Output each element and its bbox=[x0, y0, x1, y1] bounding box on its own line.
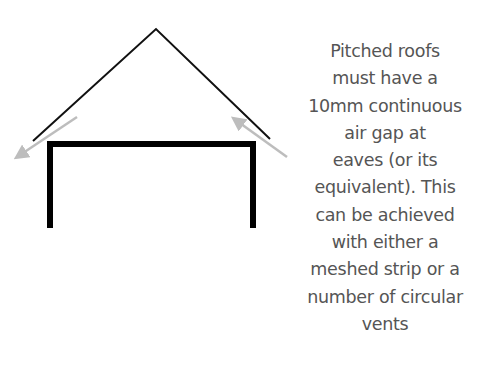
airflow-in-right-arrow bbox=[237, 121, 287, 157]
caption-text: Pitched roofs must have a 10mm continuou… bbox=[290, 38, 480, 338]
caption-line: vents bbox=[290, 311, 480, 338]
caption-line: equivalent). This bbox=[290, 174, 480, 201]
caption-line: with either a bbox=[290, 229, 480, 256]
caption-line: air gap at bbox=[290, 120, 480, 147]
caption-line: eaves (or its bbox=[290, 147, 480, 174]
caption-line: meshed strip or a bbox=[290, 256, 480, 283]
caption-line: number of circular bbox=[290, 284, 480, 311]
caption-line: must have a bbox=[290, 65, 480, 92]
house-walls bbox=[50, 144, 253, 228]
caption-line: can be achieved bbox=[290, 202, 480, 229]
caption-line: Pitched roofs bbox=[290, 38, 480, 65]
pitched-roof bbox=[33, 29, 270, 141]
caption-line: 10mm continuous bbox=[290, 93, 480, 120]
